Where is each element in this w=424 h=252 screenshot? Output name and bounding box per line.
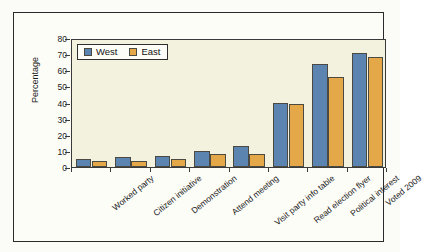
y-axis-tick-label: 10	[33, 148, 67, 157]
x-axis-tick-mark	[307, 168, 308, 172]
bar-east-4	[249, 154, 265, 167]
bar-east-3	[210, 154, 226, 167]
bar-east-2	[171, 159, 187, 167]
y-axis-tick-label: 70	[33, 51, 67, 60]
legend-label-west: West	[96, 47, 117, 57]
legend-entry-west: West	[84, 47, 117, 57]
y-axis-tick-mark	[65, 120, 70, 121]
y-axis-tick-label: 40	[33, 99, 67, 108]
x-axis-tick-mark	[71, 168, 72, 172]
x-axis-tick-mark	[268, 168, 269, 172]
y-axis-tick-label: 20	[33, 132, 67, 141]
legend-entry-east: East	[129, 47, 160, 57]
y-axis-tick-mark	[65, 136, 70, 137]
bar-east-1	[131, 161, 147, 167]
x-axis-tick-mark	[189, 168, 190, 172]
bar-west-4	[233, 146, 249, 167]
y-axis-tick-labels: 01020304050607080	[31, 39, 67, 168]
bar-east-0	[92, 161, 108, 167]
y-axis-tick-mark	[65, 168, 70, 169]
y-axis-tick-label: 50	[33, 83, 67, 92]
y-axis-tick-label: 80	[33, 35, 67, 44]
legend-swatch-east-icon	[129, 48, 137, 56]
bar-west-2	[155, 156, 171, 167]
bar-west-6	[312, 64, 328, 167]
bar-west-5	[273, 103, 289, 168]
x-axis-category-label: Worked party	[110, 173, 155, 212]
bar-east-5	[289, 104, 305, 167]
bar-west-7	[352, 53, 368, 167]
y-axis-tick-label: 30	[33, 115, 67, 124]
chart-legend: West East	[77, 44, 168, 60]
bar-west-3	[194, 151, 210, 167]
y-axis-tick-mark	[65, 104, 70, 105]
y-axis-tick-mark	[65, 71, 70, 72]
x-axis-tick-mark	[110, 168, 111, 172]
y-axis-tick-mark	[65, 87, 70, 88]
y-axis-tick-label: 60	[33, 67, 67, 76]
x-axis-tick-mark	[229, 168, 230, 172]
legend-swatch-west-icon	[84, 48, 92, 56]
x-axis-category-label: Visit party info table	[273, 173, 337, 227]
bar-east-7	[368, 57, 384, 167]
y-axis-tick-mark	[65, 39, 70, 40]
chart-figure-frame: Percentage 01020304050607080 West East W…	[13, 12, 384, 242]
bar-west-0	[76, 159, 92, 167]
y-axis-tick-label: 0	[33, 164, 67, 173]
x-axis-tick-mark	[386, 168, 387, 172]
y-axis-tick-mark	[65, 55, 70, 56]
y-axis-tick-mark	[65, 152, 70, 153]
x-axis-tick-mark	[150, 168, 151, 172]
x-axis-tick-mark	[347, 168, 348, 172]
legend-label-east: East	[141, 47, 160, 57]
bar-east-6	[328, 77, 344, 167]
bar-west-1	[115, 157, 131, 167]
